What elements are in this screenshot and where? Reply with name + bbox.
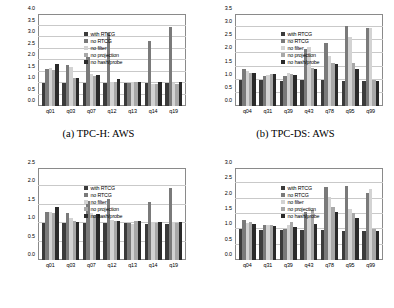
bar <box>158 222 161 260</box>
legend-label: no hash/probe <box>288 213 320 219</box>
bar <box>76 222 79 260</box>
y-tick-label: 1.5 <box>225 58 232 64</box>
bar-group <box>165 14 182 106</box>
x-tick-label: q03 <box>62 262 80 268</box>
x-tick-label: q07 <box>82 108 100 114</box>
legend-item: no RTCG <box>84 38 122 44</box>
bar <box>376 81 379 106</box>
x-axis-b: q04q31q39q43q78q95q99 <box>235 108 383 114</box>
bar-group <box>145 168 162 260</box>
y-tick-label: 0.5 <box>28 233 35 239</box>
x-tick-label: q14 <box>144 262 162 268</box>
x-tick-label: q19 <box>165 262 183 268</box>
x-tick-label: q99 <box>362 262 380 268</box>
legend-swatch-icon <box>84 46 88 50</box>
bar-group <box>342 168 359 260</box>
bar <box>293 75 296 106</box>
legend-swatch-icon <box>281 32 285 36</box>
legend-swatch-icon <box>281 193 285 197</box>
bar-group <box>124 14 141 106</box>
x-tick-label: q39 <box>279 262 297 268</box>
x-tick-label: q78 <box>321 108 339 114</box>
bar <box>335 64 338 106</box>
x-axis-a: q01q03q07q12q13q14q19 <box>38 108 186 114</box>
legend-item: with RTCG <box>84 31 122 37</box>
x-tick-label: q01 <box>41 108 59 114</box>
legend-item: no RTCG <box>281 38 319 44</box>
y-tick-label: 0.0 <box>28 251 35 257</box>
y-tick-label: 2.5 <box>225 31 232 37</box>
x-tick-label: q04 <box>238 108 256 114</box>
bar-group <box>145 14 162 106</box>
x-tick-label: q78 <box>321 262 339 268</box>
y-tick-label: 2.0 <box>28 51 35 57</box>
x-tick-label: q01 <box>41 262 59 268</box>
x-tick-label: q03 <box>62 108 80 114</box>
plot-area-c: 0.00.51.01.52.02.5 with RTCGno RTCGno fi… <box>38 168 186 260</box>
bar-group <box>342 14 359 106</box>
x-tick-label: q04 <box>238 262 256 268</box>
bar <box>252 73 255 106</box>
legend-item: no hash/probe <box>281 213 319 219</box>
bar-group <box>42 168 59 260</box>
y-tick-label: 2.0 <box>225 190 232 196</box>
bar <box>138 82 141 106</box>
bar <box>376 231 379 260</box>
y-tick-label: 2.5 <box>28 40 35 46</box>
y-tick-label: 2.0 <box>28 177 35 183</box>
legend-label: with RTCG <box>288 31 312 37</box>
legend-swatch-icon <box>84 200 88 204</box>
y-tick-label: 2.5 <box>28 159 35 165</box>
legend-swatch-icon <box>281 46 285 50</box>
x-tick-label: q43 <box>300 108 318 114</box>
x-tick-label: q95 <box>341 262 359 268</box>
legend-label: no projection <box>91 206 119 212</box>
y-tick-label: 1.5 <box>28 63 35 69</box>
legend-item: with RTCG <box>84 185 122 191</box>
legend-item: no RTCG <box>84 192 122 198</box>
bar <box>314 69 317 106</box>
bar <box>96 75 99 106</box>
plot-area-d: 0.00.51.01.52.02.53.0 with RTCGno RTCGno… <box>235 168 383 260</box>
legend-swatch-icon <box>84 207 88 211</box>
legend-swatch-icon <box>84 39 88 43</box>
y-tick-label: 3.5 <box>225 5 232 11</box>
legend-label: no filter <box>288 199 304 205</box>
y-tick-label: 4.0 <box>28 5 35 11</box>
x-tick-label: q19 <box>165 108 183 114</box>
x-axis-c: q01q03q07q12q13q14q19 <box>38 262 186 268</box>
legend-swatch-icon <box>281 60 285 64</box>
y-tick-label: 1.0 <box>225 71 232 77</box>
bar-group <box>259 168 276 260</box>
legend-swatch-icon <box>281 200 285 204</box>
x-tick-label: q95 <box>341 108 359 114</box>
chart-panel-a: 0.00.51.01.52.02.53.03.54.0 with RTCGno … <box>0 0 197 154</box>
legend-label: no RTCG <box>288 192 309 198</box>
legend-label: no projection <box>288 206 316 212</box>
legend-label: no hash/probe <box>91 59 123 65</box>
figure-container: 0.00.51.01.52.02.53.03.54.0 with RTCGno … <box>0 0 394 308</box>
x-tick-label: q31 <box>259 262 277 268</box>
legend-swatch-icon <box>281 186 285 190</box>
bar <box>355 218 358 260</box>
bar <box>252 224 255 260</box>
legend-item: no hash/probe <box>281 59 319 65</box>
legend-label: no hash/probe <box>91 213 123 219</box>
legend-swatch-icon <box>84 186 88 190</box>
legend-swatch-icon <box>281 39 285 43</box>
bar <box>293 227 296 260</box>
legend-item: no projection <box>84 52 122 58</box>
x-tick-label: q12 <box>103 262 121 268</box>
legend-item: no hash/probe <box>84 213 122 219</box>
legend-swatch-icon <box>84 193 88 197</box>
y-tick-label: 0.5 <box>28 86 35 92</box>
y-tick-label: 1.0 <box>225 220 232 226</box>
bar-group <box>62 168 79 260</box>
bar-group <box>239 168 256 260</box>
legend-swatch-icon <box>84 60 88 64</box>
legend-b: with RTCGno RTCGno filterno projectionno… <box>281 31 319 65</box>
bar <box>158 82 161 106</box>
legend-label: no RTCG <box>91 192 112 198</box>
bar <box>117 221 120 260</box>
bar-group <box>362 14 379 106</box>
